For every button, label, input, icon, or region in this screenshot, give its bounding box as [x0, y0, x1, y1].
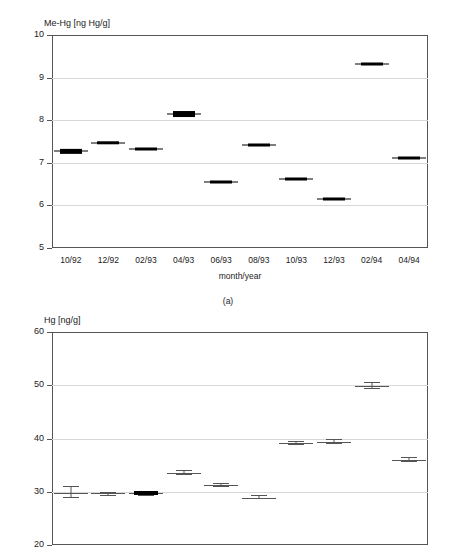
- marker-mean-line: [355, 386, 389, 387]
- error-bar-cap-bottom: [138, 495, 154, 496]
- y-tick-mark: [47, 205, 52, 206]
- data-marker: [317, 198, 351, 201]
- data-marker: [54, 149, 88, 153]
- marker-box: [134, 491, 158, 495]
- data-marker: [326, 439, 342, 444]
- y-tick-mark: [47, 120, 52, 121]
- y-tick-label: 40: [22, 434, 44, 443]
- error-bar-cap-top: [63, 486, 79, 487]
- x-tick-label: 04/94: [387, 256, 431, 265]
- gridline: [52, 78, 428, 79]
- data-marker: [176, 470, 192, 475]
- data-marker: [91, 141, 125, 144]
- error-bar-cap-top: [288, 441, 304, 442]
- error-bar-cap-bottom: [401, 461, 417, 462]
- chart-panel-a: Me-Hg [ng Hg/g] 1098765 10/9212/9202/930…: [0, 0, 455, 292]
- y-tick-label: 20: [22, 540, 44, 549]
- marker-mean-line: [54, 493, 88, 494]
- marker-mean-line: [167, 473, 201, 474]
- gridline: [52, 163, 428, 164]
- data-marker: [167, 111, 201, 117]
- y-tick-label: 60: [22, 327, 44, 336]
- marker-box: [248, 143, 270, 146]
- error-bar-cap-bottom: [288, 444, 304, 445]
- y-tick-mark: [47, 332, 52, 333]
- y-tick-mark: [47, 439, 52, 440]
- y-tick-label: 8: [22, 115, 44, 124]
- marker-box: [173, 111, 195, 117]
- marker-mean-line: [204, 485, 238, 486]
- data-marker: [288, 441, 304, 445]
- error-bar-cap-bottom: [100, 495, 116, 496]
- y-tick-label: 10: [22, 30, 44, 39]
- gridline: [52, 205, 428, 206]
- panel-a-title: Me-Hg [ng Hg/g]: [44, 18, 110, 28]
- marker-mean-line: [279, 443, 313, 444]
- error-bar-cap-top: [326, 439, 342, 440]
- y-tick-label: 9: [22, 73, 44, 82]
- chart-panel-b: Hg [ng/g] 6050403020: [0, 292, 455, 553]
- error-bar-cap-bottom: [176, 474, 192, 475]
- y-tick-label: 7: [22, 158, 44, 167]
- data-marker: [63, 486, 79, 497]
- error-bar-cap-bottom: [251, 498, 267, 499]
- data-marker: [242, 143, 276, 146]
- y-tick-mark: [47, 35, 52, 36]
- data-marker: [279, 177, 313, 180]
- y-tick-mark: [47, 492, 52, 493]
- panel-a-xlabel: month/year: [190, 271, 290, 281]
- error-bar-cap-top: [176, 470, 192, 471]
- panel-b-title: Hg [ng/g]: [44, 315, 81, 325]
- marker-mean-line: [242, 498, 276, 499]
- data-marker: [401, 457, 417, 462]
- error-bar-cap-bottom: [213, 486, 229, 487]
- data-marker: [138, 492, 154, 496]
- data-marker: [100, 492, 116, 496]
- data-marker: [364, 382, 380, 389]
- y-tick-label: 50: [22, 380, 44, 389]
- marker-box: [97, 141, 119, 144]
- data-marker: [251, 495, 267, 499]
- marker-mean-line: [392, 460, 426, 461]
- y-tick-mark: [47, 163, 52, 164]
- error-bar-cap-bottom: [364, 388, 380, 389]
- y-tick-label: 6: [22, 200, 44, 209]
- marker-box: [60, 149, 82, 153]
- marker-box: [285, 177, 307, 180]
- error-bar-cap-top: [251, 495, 267, 496]
- data-marker: [392, 156, 426, 159]
- marker-box: [210, 180, 232, 183]
- marker-box: [361, 62, 383, 65]
- data-marker: [355, 62, 389, 65]
- y-tick-mark: [47, 248, 52, 249]
- error-bar-cap-bottom: [326, 443, 342, 444]
- error-bar-cap-top: [401, 457, 417, 458]
- marker-mean-line: [91, 493, 125, 494]
- y-tick-label: 5: [22, 243, 44, 252]
- data-marker: [213, 483, 229, 487]
- marker-box: [398, 156, 420, 159]
- y-tick-mark: [47, 545, 52, 546]
- marker-box: [135, 147, 157, 150]
- y-tick-mark: [47, 78, 52, 79]
- gridline: [52, 439, 428, 440]
- error-bar-cap-top: [213, 483, 229, 484]
- error-bar-cap-top: [364, 382, 380, 383]
- y-tick-mark: [47, 385, 52, 386]
- marker-box: [323, 198, 345, 201]
- gridline: [52, 120, 428, 121]
- marker-mean-line: [317, 442, 351, 443]
- data-marker: [129, 147, 163, 150]
- error-bar-cap-bottom: [63, 497, 79, 498]
- data-marker: [204, 180, 238, 183]
- y-tick-label: 30: [22, 487, 44, 496]
